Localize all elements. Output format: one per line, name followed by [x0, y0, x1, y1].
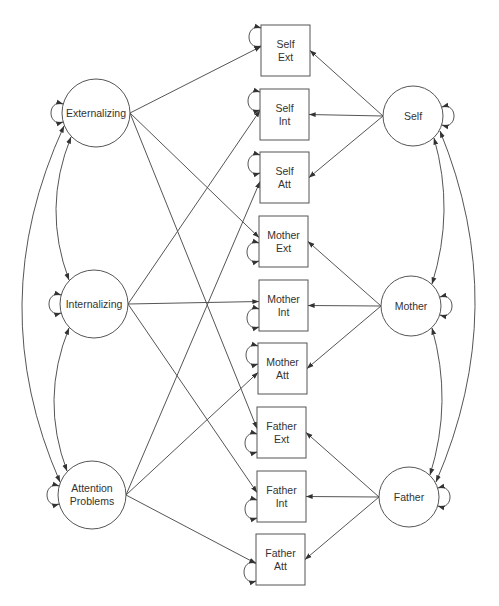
node-label: Mother	[267, 229, 300, 241]
factor-loading-paths	[126, 47, 383, 564]
node-label: Self	[275, 165, 293, 177]
observed-mother-att: MotherAtt	[258, 343, 307, 394]
observed-mother-int: MotherInt	[259, 280, 308, 331]
residual-loop	[248, 91, 260, 110]
residual-loop	[49, 294, 61, 313]
node-label: Mother	[267, 293, 300, 305]
node-label: Self	[276, 38, 294, 50]
path-diagram: SelfExtSelfIntSelfAttMotherExtMotherIntM…	[0, 0, 499, 606]
residual-loop	[442, 106, 454, 125]
residual-loop	[47, 485, 59, 504]
loading-path	[128, 304, 257, 493]
latent-mother: Mother	[381, 276, 441, 336]
residual-loop	[248, 154, 260, 173]
loading-path	[128, 111, 260, 305]
observed-father-ext: FatherExt	[257, 407, 306, 458]
covariance-arc	[432, 138, 444, 284]
residual-loop	[51, 103, 63, 122]
node-label: Int	[278, 306, 290, 318]
node-label: Father	[265, 547, 296, 559]
node-label: Mother	[266, 356, 299, 368]
node-label: Att	[276, 369, 289, 381]
node-label: Father	[394, 491, 425, 503]
node-label: Ext	[278, 51, 293, 63]
residual-loop	[438, 487, 450, 506]
latent-ext: Externalizing	[62, 79, 130, 147]
loading-path	[130, 113, 257, 429]
covariance-arc	[430, 328, 442, 475]
loading-path	[308, 242, 381, 307]
residual-loop	[246, 345, 258, 364]
latent-self: Self	[383, 86, 443, 146]
loading-path	[309, 116, 383, 178]
covariance-arc	[56, 137, 71, 280]
loading-path	[126, 495, 256, 564]
observed-self-int: SelfInt	[260, 89, 309, 140]
residual-loop	[440, 296, 452, 315]
residual-loop	[244, 562, 256, 581]
residual-loop	[247, 242, 259, 261]
residual-loop	[247, 308, 259, 327]
loading-path	[126, 373, 258, 496]
loading-path	[306, 497, 379, 498]
loading-path	[128, 302, 259, 305]
node-label: Int	[276, 497, 288, 509]
node-label: Externalizing	[66, 107, 126, 119]
loading-path	[305, 497, 379, 560]
node-label: Father	[266, 484, 297, 496]
loading-path	[308, 306, 381, 307]
node-label: Int	[279, 115, 291, 127]
latent-att: AttentionProblems	[58, 461, 126, 529]
loading-path	[307, 306, 381, 369]
observed-self-att: SelfAtt	[260, 152, 309, 203]
diagram-nodes: SelfExtSelfIntSelfAttMotherExtMotherIntM…	[58, 25, 443, 585]
covariance-arc	[54, 328, 69, 471]
node-label: Self	[275, 102, 293, 114]
node-label: Att	[278, 178, 291, 190]
loading-path	[130, 113, 259, 238]
node-label: Father	[266, 420, 297, 432]
loading-path	[126, 182, 260, 496]
latent-father: Father	[379, 467, 439, 527]
observed-father-att: FatherAtt	[256, 534, 305, 585]
node-label: Ext	[276, 242, 291, 254]
loading-path	[306, 433, 379, 498]
observed-self-ext: SelfExt	[261, 25, 310, 76]
node-label: Problems	[70, 495, 114, 507]
latent-int: Internalizing	[60, 270, 128, 338]
covariance-arc	[436, 131, 475, 482]
residual-loop	[249, 27, 261, 46]
node-label: Att	[274, 560, 287, 572]
node-label: Ext	[274, 433, 289, 445]
residual-loop	[245, 433, 257, 452]
loading-path	[310, 51, 383, 117]
observed-father-int: FatherInt	[257, 471, 306, 522]
loading-path	[130, 47, 261, 114]
node-label: Self	[404, 110, 422, 122]
node-label: Mother	[395, 300, 428, 312]
observed-mother-ext: MotherExt	[259, 216, 308, 267]
residual-loop	[245, 499, 257, 518]
node-label: Attention	[71, 482, 113, 494]
covariance-arc	[22, 126, 64, 482]
loading-path	[309, 115, 383, 117]
node-label: Internalizing	[66, 298, 123, 310]
